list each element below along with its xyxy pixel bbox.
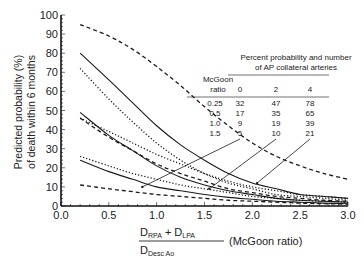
y-axis-title-line-1: Predicted probability (%) (12, 55, 24, 169)
table-cell: 17 (236, 109, 245, 118)
series-line (80, 160, 348, 204)
table-title-line-1: Percent probability and number (240, 53, 352, 62)
table-cell: 65 (306, 109, 315, 118)
x-axis-title: DRPA + DLPA DDesc Ao (McGoon ratio) (139, 226, 302, 257)
y-tick-label: 60 (46, 85, 58, 97)
annotation-point (141, 186, 143, 188)
x-tick-label: 0.5 (101, 209, 116, 221)
table-row-header-2: ratio (210, 85, 226, 94)
table-row-header-1: McGoon (203, 75, 233, 84)
y-tick-label: 80 (46, 47, 58, 59)
y-tick-label: 30 (46, 143, 58, 155)
x-axis-denominator: DDesc Ao (140, 244, 174, 257)
table-cell: 39 (306, 119, 315, 128)
y-tick-label: 10 (46, 181, 58, 193)
x-tick-label: 2.0 (245, 209, 260, 221)
table-row-ratio: 0.25 (207, 99, 223, 108)
table-cell: 19 (272, 119, 281, 128)
x-tick-label: 1.0 (149, 209, 164, 221)
table-title-line-2: of AP collateral arteries (255, 63, 337, 72)
mortality-chart: 01020304050607080901000.00.51.01.52.02.5… (0, 0, 364, 261)
annotation-point (208, 188, 210, 190)
x-tick-label: 3.0 (340, 209, 355, 221)
table-cell: 47 (272, 99, 281, 108)
table-col-header: 0 (238, 85, 243, 94)
annotation-leader (209, 139, 276, 189)
table-cell: 21 (306, 129, 315, 138)
x-tick-label: 2.5 (293, 209, 308, 221)
y-axis-title-line-2: of death within 6 months (25, 55, 37, 169)
annotation-point (256, 182, 258, 184)
x-axis-suffix: (McGoon ratio) (229, 235, 302, 247)
table-col-header: 2 (274, 85, 279, 94)
table-row-ratio: 1.0 (209, 119, 221, 128)
table-cell: 35 (272, 109, 281, 118)
table-cell: 9 (238, 119, 243, 128)
table-cell: 78 (306, 99, 315, 108)
y-tick-label: 100 (40, 9, 58, 21)
inset-table: Percent probability and number of AP col… (187, 53, 352, 138)
x-axis-numerator: DRPA + DLPA (140, 226, 195, 239)
x-tick-label: 0.0 (53, 209, 68, 221)
table-row-ratio: 1.5 (209, 129, 221, 138)
table-cell: 5 (238, 129, 243, 138)
table-col-header: 4 (308, 85, 313, 94)
y-tick-label: 50 (46, 105, 58, 117)
annotation-leader (257, 139, 310, 183)
x-tick-label: 1.5 (197, 209, 212, 221)
y-tick-label: 90 (46, 28, 58, 40)
y-tick-label: 70 (46, 66, 58, 78)
y-tick-label: 40 (46, 124, 58, 136)
table-cell: 32 (236, 99, 245, 108)
table-body: 0.253247780.51735651.0919391.551021 (207, 99, 315, 138)
y-axis-title: Predicted probability (%) of death withi… (12, 55, 37, 169)
table-row-ratio: 0.5 (209, 109, 221, 118)
y-tick-label: 20 (46, 162, 58, 174)
table-cell: 10 (272, 129, 281, 138)
